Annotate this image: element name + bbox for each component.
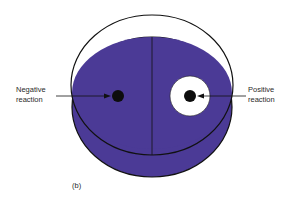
negative-colony: [112, 90, 124, 102]
positive-label-line2: reaction: [248, 95, 275, 105]
positive-label-line1: Positive: [248, 85, 275, 95]
negative-label-line2: reaction: [16, 95, 46, 105]
positive-colony: [184, 90, 196, 102]
negative-label-line1: Negative: [16, 85, 46, 95]
figure-caption: (b): [72, 181, 81, 190]
negative-reaction-label: Negative reaction: [16, 85, 46, 105]
petri-dish-diagram: Negative reaction Positive reaction (b): [0, 0, 296, 203]
positive-reaction-label: Positive reaction: [248, 85, 275, 105]
